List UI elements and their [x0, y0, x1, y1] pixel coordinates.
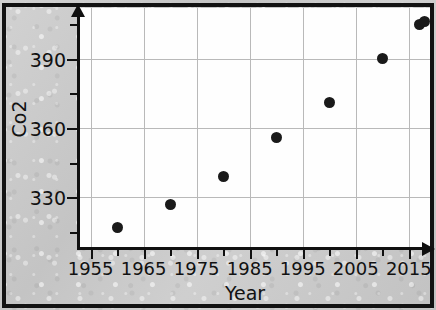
x-axis-tick-label: 1995 — [273, 258, 333, 279]
y-axis-arrow-icon — [71, 4, 85, 17]
chart-figure: 330360390 1955196519751985199520052015 C… — [0, 0, 436, 310]
gridline-horizontal — [80, 197, 430, 198]
scatter-point — [218, 171, 229, 182]
scatter-point — [271, 132, 282, 143]
y-axis-tick-minor — [70, 24, 77, 26]
x-axis-tick-label-text: 1995 — [280, 258, 326, 279]
x-axis-tick-label: 2005 — [326, 258, 386, 279]
scatter-point — [112, 222, 123, 233]
gridline-vertical — [250, 8, 251, 248]
scatter-point — [324, 97, 335, 108]
y-axis-tick-major — [67, 128, 77, 130]
y-axis-tick-label-text: 330 — [4, 187, 66, 209]
gridline-vertical — [356, 8, 357, 248]
x-axis-tick-label-text: 2015 — [386, 258, 432, 279]
y-axis-tick-major — [67, 59, 77, 61]
x-axis-title: Year — [80, 282, 410, 304]
plot-area — [80, 8, 430, 248]
x-axis-tick-minor — [170, 249, 172, 256]
scatter-point — [165, 199, 176, 210]
x-axis-tick-label: 1955 — [61, 258, 121, 279]
y-axis-tick-label: 390 — [0, 49, 66, 69]
x-axis-tick-label-text: 1955 — [68, 258, 114, 279]
x-axis-tick-minor — [117, 249, 119, 256]
y-axis-tick-label: 330 — [0, 187, 66, 207]
x-axis-tick-label: 2015 — [379, 258, 436, 279]
x-axis-tick-minor — [382, 249, 384, 256]
x-axis-tick-minor — [276, 249, 278, 256]
y-axis-title: Co2 — [8, 84, 30, 154]
y-axis-tick-minor — [70, 232, 77, 234]
x-axis-tick-label-text: 1975 — [174, 258, 220, 279]
gridline-vertical — [197, 8, 198, 248]
y-axis-tick-minor — [70, 163, 77, 165]
x-axis-tick-label-text: 1965 — [121, 258, 167, 279]
gridline-vertical — [303, 8, 304, 248]
gridline-vertical — [91, 8, 92, 248]
x-axis-tick-label: 1975 — [167, 258, 227, 279]
x-axis-tick-minor — [329, 249, 331, 256]
gridline-horizontal — [80, 128, 430, 129]
gridline-vertical — [409, 8, 410, 248]
scatter-point — [419, 16, 430, 27]
x-axis-arrow-icon — [422, 242, 435, 256]
x-axis-tick-label-text: 1985 — [227, 258, 273, 279]
y-axis-tick-label-text: 390 — [4, 49, 66, 71]
x-axis-tick-label: 1965 — [114, 258, 174, 279]
y-axis-line — [77, 14, 80, 250]
y-axis-tick-major — [67, 197, 77, 199]
scatter-point — [377, 53, 388, 64]
x-axis-tick-label: 1985 — [220, 258, 280, 279]
x-axis-tick-minor — [223, 249, 225, 256]
y-axis-tick-minor — [70, 93, 77, 95]
gridline-vertical — [144, 8, 145, 248]
x-axis-tick-label-text: 2005 — [333, 258, 379, 279]
